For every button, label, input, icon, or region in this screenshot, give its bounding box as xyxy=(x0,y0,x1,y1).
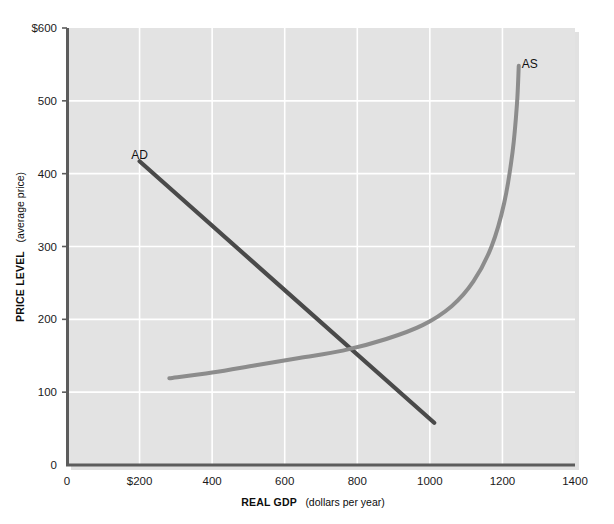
ad-as-chart-figure: 0100200300400500$600 0$20040060080010001… xyxy=(0,0,614,524)
y-axis-tick-label: 300 xyxy=(38,241,57,253)
x-axis-title-bold: REAL GDP xyxy=(241,496,297,508)
x-axis-tick-label: $200 xyxy=(127,475,153,487)
x-axis-tick-label: 800 xyxy=(348,475,367,487)
y-axis-title-bold: PRICE LEVEL xyxy=(14,251,26,322)
x-axis-tick-label: 1000 xyxy=(417,475,443,487)
x-axis-tick-label: 1400 xyxy=(562,475,588,487)
y-axis-tick-label: 200 xyxy=(38,313,57,325)
x-axis-tick-label: 400 xyxy=(203,475,222,487)
y-axis-tick-label: 400 xyxy=(38,168,57,180)
y-axis-title: PRICE LEVEL (average price) xyxy=(10,172,27,322)
y-axis-tick-label: 100 xyxy=(38,386,57,398)
x-axis-tick-label: 0 xyxy=(64,475,70,487)
x-axis-title: REAL GDP (dollars per year) xyxy=(241,492,385,509)
svg-text:REAL GDP (dollars per: REAL GDP (dollars per year) xyxy=(241,492,385,509)
x-axis-title-paren: (dollars per year) xyxy=(305,496,384,508)
svg-text:PRICE LEVEL (average p: PRICE LEVEL (average price) xyxy=(10,172,27,322)
x-axis-tick-label: 600 xyxy=(275,475,294,487)
x-axis-tick-labels: 0$200400600800100012001400 xyxy=(64,475,588,487)
x-axis-tick-label: 1200 xyxy=(490,475,516,487)
y-axis-tick-label: 0 xyxy=(51,459,57,471)
y-axis-tick-label: $600 xyxy=(31,22,57,34)
y-axis-tick-label: 500 xyxy=(38,95,57,107)
chart-canvas: 0100200300400500$600 0$20040060080010001… xyxy=(0,0,614,524)
y-axis-tick-labels: 0100200300400500$600 xyxy=(31,22,67,471)
curve-label-as: AS xyxy=(522,57,538,71)
curve-label-ad: AD xyxy=(131,148,148,162)
y-axis-title-paren: (average price) xyxy=(14,172,26,243)
